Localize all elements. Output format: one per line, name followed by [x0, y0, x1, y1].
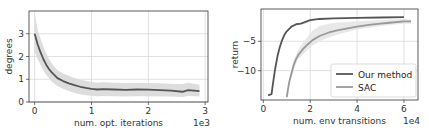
x-tick-label: 6 [401, 104, 407, 114]
x-ticks: 0123 [32, 102, 208, 116]
x-axis-label: num. opt. iterations [74, 118, 163, 128]
y-tick-label: 3 [18, 29, 24, 39]
legend: Our method SAC [331, 64, 416, 97]
chart-degrees: 0123 0123 num. opt. iterations degrees 1… [4, 11, 210, 128]
y-tick-label: −5 [243, 36, 256, 46]
x-tick-label: 0 [32, 106, 38, 116]
series-band [35, 13, 200, 97]
x-tick-label: 0 [260, 104, 266, 114]
x-tick-label: 2 [307, 104, 313, 114]
x-ticks: 0246 [260, 100, 407, 114]
x-offset-label: 1e4 [403, 116, 420, 126]
y-tick-label: 0 [18, 97, 24, 107]
legend-label-our-method: Our method [358, 70, 412, 80]
x-axis-label: num. env transitions [293, 116, 386, 126]
confidence-band [35, 13, 200, 97]
x-offset-label: 1e3 [193, 118, 210, 128]
figure-svg: 0123 0123 num. opt. iterations degrees 1… [0, 0, 429, 136]
y-axis-label: degrees [4, 38, 14, 75]
x-tick-label: 2 [145, 106, 151, 116]
y-axis-label: return [230, 41, 240, 69]
legend-label-sac: SAC [358, 83, 376, 93]
chart-return: 0246 −10−5 num. env transitions return 1… [230, 9, 420, 126]
y-tick-label: 1 [18, 74, 24, 84]
x-tick-label: 4 [354, 104, 360, 114]
y-ticks: 0123 [18, 29, 29, 107]
x-tick-label: 3 [202, 106, 208, 116]
x-tick-label: 1 [89, 106, 95, 116]
figure: 0123 0123 num. opt. iterations degrees 1… [0, 0, 429, 136]
y-tick-label: 2 [18, 52, 24, 62]
y-ticks: −10−5 [237, 36, 261, 75]
